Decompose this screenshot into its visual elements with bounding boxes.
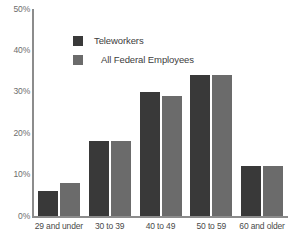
bar (38, 191, 58, 216)
bar (140, 92, 160, 216)
chart-legend: Teleworkers All Federal Employees (73, 31, 194, 69)
legend-swatch-icon-teleworkers (73, 36, 83, 46)
x-axis-category-label: 50 to 59 (186, 221, 237, 231)
bar-group (241, 9, 283, 216)
y-axis-tick-label: 30% (2, 87, 30, 96)
y-axis-tick-label: 10% (2, 170, 30, 179)
legend-item-teleworkers: Teleworkers (73, 31, 194, 50)
y-axis-tick-label: 40% (2, 46, 30, 55)
y-axis-tick-label: 50% (2, 5, 30, 14)
x-axis-category-label: 60 and older (237, 221, 288, 231)
bar (212, 75, 232, 216)
y-axis-tick-label: 0% (2, 212, 30, 221)
bar (111, 141, 131, 216)
x-axis-category-label: 29 and under (34, 221, 85, 231)
bar (60, 183, 80, 216)
legend-swatch-icon-all-federal-employees (73, 55, 83, 65)
bar (162, 96, 182, 216)
bar-group (190, 9, 232, 216)
bar (89, 141, 109, 216)
legend-label-teleworkers: Teleworkers (94, 35, 144, 46)
bar-chart: 50%40%30%20%10%0% Teleworkers All Federa… (0, 0, 292, 241)
legend-label-all-federal-employees: All Federal Employees (101, 54, 194, 65)
bar (190, 75, 210, 216)
x-axis-line (32, 216, 288, 218)
x-axis-category-label: 30 to 39 (84, 221, 135, 231)
y-axis-tick-label: 20% (2, 129, 30, 138)
legend-item-all-federal-employees: All Federal Employees (73, 50, 194, 69)
bar (263, 166, 283, 216)
x-axis-category-label: 40 to 49 (135, 221, 186, 231)
bar (241, 166, 261, 216)
y-axis-tick-labels: 50%40%30%20%10%0% (0, 0, 30, 241)
